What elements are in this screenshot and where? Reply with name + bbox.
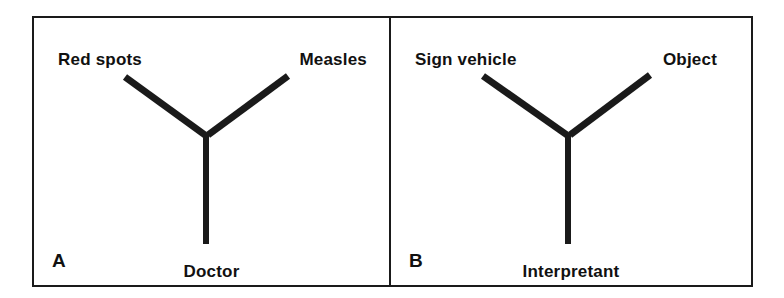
node-label-bottom-b: Interpretant bbox=[523, 262, 620, 282]
edge-center-to-top-left-b bbox=[483, 76, 567, 135]
panel-letter-b: B bbox=[409, 251, 423, 271]
figure-root: Red spots Measles Doctor A Sign vehicle … bbox=[0, 0, 784, 298]
node-label-top-left-a: Red spots bbox=[58, 50, 142, 70]
edge-center-to-top-right-b bbox=[570, 75, 650, 135]
edge-center-to-top-right-a bbox=[208, 76, 288, 135]
node-label-top-right-a: Measles bbox=[299, 50, 367, 70]
node-label-bottom-a: Doctor bbox=[184, 262, 240, 282]
edge-center-to-top-left-a bbox=[125, 77, 205, 135]
panel-divider bbox=[389, 16, 391, 287]
node-label-top-left-b: Sign vehicle bbox=[415, 50, 517, 70]
panel-a-inner: Red spots Measles Doctor A bbox=[32, 16, 391, 287]
panel-b-inner: Sign vehicle Object Interpretant B bbox=[389, 16, 753, 287]
panel-letter-a: A bbox=[52, 251, 66, 271]
panel-b: Sign vehicle Object Interpretant B bbox=[389, 16, 753, 287]
panel-a: Red spots Measles Doctor A bbox=[32, 16, 391, 287]
node-label-top-right-b: Object bbox=[663, 50, 717, 70]
